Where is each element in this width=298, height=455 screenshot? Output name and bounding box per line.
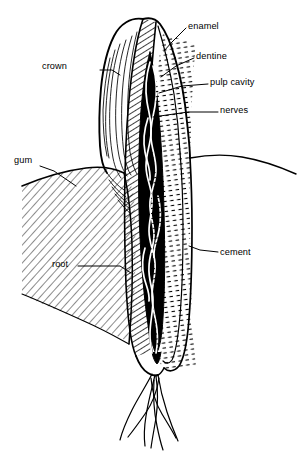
apical-fibre-7 xyxy=(154,380,163,450)
label-nerves: nerves xyxy=(220,105,248,115)
label-gum: gum xyxy=(14,155,32,165)
label-crown: crown xyxy=(42,61,67,71)
apical-fibre-3 xyxy=(158,375,178,441)
label-cement: cement xyxy=(220,247,251,257)
leader-cement xyxy=(189,246,218,252)
gum-line-right xyxy=(190,155,296,174)
label-root: root xyxy=(52,259,68,269)
gum-hatch-fill xyxy=(14,160,144,355)
label-pulp-cavity: pulp cavity xyxy=(210,77,255,87)
label-enamel: enamel xyxy=(188,21,219,31)
label-dentine: dentine xyxy=(196,51,227,61)
tooth-diagram: crown gum root enamel dentine pulp cavit… xyxy=(0,0,298,455)
tooth-outline-group xyxy=(14,10,296,450)
apical-fibre-group xyxy=(120,374,178,450)
root-right-contour xyxy=(158,368,164,375)
